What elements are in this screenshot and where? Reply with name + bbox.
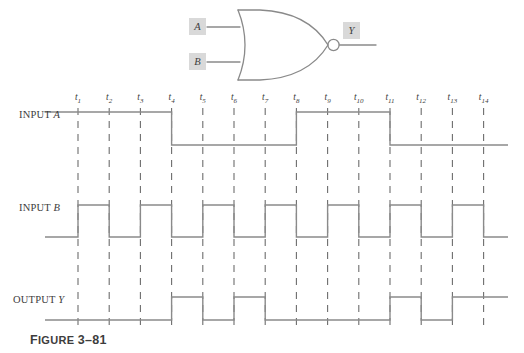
gate-output-y-label: Y	[343, 22, 360, 39]
gate-body-outline	[238, 10, 328, 80]
input-a-signal-letter: A	[54, 109, 61, 120]
time-tick-label-t8: t8	[293, 92, 299, 105]
time-tick-label-t7: t7	[262, 92, 268, 105]
gate-input-a-label: A	[189, 18, 206, 35]
time-marker-lines	[78, 108, 484, 328]
timing-diagram: INPUT A INPUT B OUTPUT Y t1t2t3t4t5t6t7t…	[0, 92, 524, 332]
time-tick-label-t5: t5	[200, 92, 206, 105]
time-tick-label-t13: t13	[448, 92, 458, 105]
waveform-input-b	[45, 205, 508, 237]
waveform-output-y	[45, 297, 508, 320]
waveform-label-input-a: INPUT A	[19, 109, 60, 120]
time-tick-label-t6: t6	[231, 92, 237, 105]
time-tick-label-t10: t10	[354, 92, 364, 105]
time-tick-label-t9: t9	[325, 92, 331, 105]
time-tick-label-t1: t1	[75, 92, 81, 105]
gate-input-b-label: B	[189, 53, 206, 70]
output-y-signal-letter: Y	[58, 294, 64, 305]
time-tick-label-t4: t4	[169, 92, 175, 105]
caption-text-rest: IGURE	[38, 334, 74, 346]
timing-diagram-svg	[0, 92, 524, 332]
time-tick-label-t11: t11	[385, 92, 394, 105]
gate-back-arc	[238, 10, 245, 80]
time-tick-label-t14: t14	[479, 92, 489, 105]
waveform-input-a	[45, 112, 508, 145]
waveform-label-output-y: OUTPUT Y	[13, 294, 64, 305]
time-tick-label-t2: t2	[106, 92, 112, 105]
caption-text: F	[30, 333, 38, 347]
caption-number: 3–81	[78, 333, 107, 347]
figure-caption: FIGURE 3–81	[30, 333, 107, 347]
input-b-signal-letter: B	[54, 202, 61, 213]
time-tick-label-t12: t12	[416, 92, 426, 105]
figure-container: A B Y INPUT A INPUT B OUTPUT Y t1t2t3t4t…	[0, 0, 524, 353]
inversion-bubble	[328, 39, 339, 50]
nor-gate-svg	[180, 0, 400, 92]
waveform-traces	[45, 112, 508, 320]
time-tick-label-t3: t3	[137, 92, 143, 105]
nor-gate-diagram: A B Y	[180, 0, 400, 92]
waveform-label-input-b: INPUT B	[19, 202, 60, 213]
